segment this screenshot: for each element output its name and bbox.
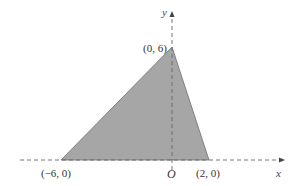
x-axis-arrow-icon: [279, 158, 285, 163]
vertex-label-top: (0, 6): [143, 42, 167, 55]
vertex-label-left: (−6, 0): [41, 167, 71, 180]
coordinate-diagram: y x O (0, 6) (−6, 0) (2, 0): [0, 0, 298, 186]
y-axis-arrow-icon: [170, 11, 175, 17]
x-axis-label: x: [275, 167, 281, 179]
origin-label: O: [167, 167, 176, 181]
shaded-triangle: [61, 47, 209, 160]
y-axis-label: y: [161, 6, 167, 18]
vertex-label-right: (2, 0): [196, 167, 220, 180]
